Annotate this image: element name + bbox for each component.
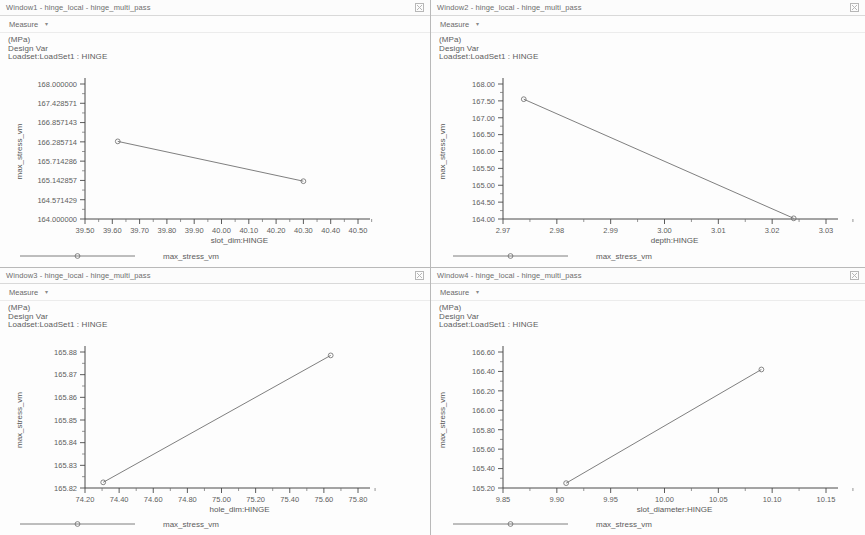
y-tick-label: 167.428571 [37, 99, 77, 108]
x-tick-label: 75.40 [280, 495, 299, 504]
plot-area-window2[interactable]: 168.00167.50167.00166.50166.00165.50165.… [431, 0, 865, 267]
y-axis-label: max_stress_vm [438, 123, 447, 179]
x-tick-label: 74.80 [178, 495, 197, 504]
x-tick-label: 39.90 [185, 226, 204, 235]
y-tick-label: 166.00 [472, 406, 495, 415]
y-tick-label: 165.142857 [37, 176, 77, 185]
x-tick-label: 40.10 [239, 226, 258, 235]
x-axis-label: slot_diameter:HINGE [637, 505, 713, 514]
x-tick-label: 75.80 [349, 495, 368, 504]
y-tick-label: 165.714286 [37, 157, 77, 166]
data-series-line [103, 355, 331, 482]
y-tick-label: 165.00 [472, 181, 495, 190]
y-tick-label: 165.80 [472, 426, 495, 435]
y-tick-label: 166.00 [472, 147, 495, 156]
y-tick-label: 166.40 [472, 367, 495, 376]
y-tick-label: 164.000000 [37, 215, 77, 224]
x-tick-label: 3.00 [657, 226, 672, 235]
x-tick-label: 9.95 [603, 495, 618, 504]
x-tick-label: 40.20 [267, 226, 286, 235]
x-tick-label: 74.20 [76, 495, 95, 504]
y-tick-label: 166.20 [472, 387, 495, 396]
y-tick-label: 166.50 [472, 130, 495, 139]
data-point-marker[interactable] [328, 353, 333, 358]
x-tick-label: 9.90 [550, 495, 565, 504]
y-tick-label: 165.85 [54, 416, 77, 425]
data-point-marker[interactable] [791, 216, 796, 221]
data-series-line [118, 141, 304, 181]
x-tick-label: 40.30 [294, 226, 313, 235]
x-tick-label: 10.15 [817, 495, 836, 504]
y-tick-label: 165.84 [54, 438, 77, 447]
y-axis-label: max_stress_vm [15, 123, 24, 179]
x-axis-label: hole_dim:HINGE [209, 505, 269, 514]
plot-area-window1[interactable]: 168.000000167.428571166.857143166.285714… [0, 0, 430, 267]
x-tick-label: 40.50 [349, 226, 368, 235]
x-tick-label: 40.00 [212, 226, 231, 235]
legend-series-label: max_stress_vm [163, 520, 219, 529]
y-axis-label: max_stress_vm [438, 392, 447, 448]
panel-window2: Window2 - hinge_local - hinge_multi_pass… [430, 0, 865, 267]
x-tick-label: 40.40 [321, 226, 340, 235]
y-tick-label: 165.86 [54, 393, 77, 402]
legend-series-label: max_stress_vm [163, 252, 219, 261]
x-axis-label: slot_dim:HINGE [211, 236, 268, 245]
y-tick-label: 166.285714 [37, 138, 77, 147]
legend-series-label: max_stress_vm [596, 520, 652, 529]
panel-window1: Window1 - hinge_local - hinge_multi_pass… [0, 0, 430, 267]
y-tick-label: 165.87 [54, 370, 77, 379]
data-point-marker[interactable] [101, 480, 106, 485]
x-tick-label: 39.50 [76, 226, 95, 235]
x-tick-label: 75.00 [212, 495, 231, 504]
plot-area-window3[interactable]: 165.88165.87165.86165.85165.84165.83165.… [0, 268, 430, 535]
y-tick-label: 165.83 [54, 461, 77, 470]
data-series-line [524, 99, 794, 218]
legend-series-label: max_stress_vm [596, 252, 652, 261]
x-tick-label: 75.20 [246, 495, 265, 504]
y-tick-label: 164.571429 [37, 196, 77, 205]
x-tick-label: 10.05 [709, 495, 728, 504]
footer-legend-window3: max_stress_vm [8, 515, 422, 531]
panel-window3: Window3 - hinge_local - hinge_multi_pass… [0, 267, 430, 535]
x-tick-label: 3.02 [765, 226, 780, 235]
y-tick-label: 168.000000 [37, 80, 77, 89]
x-axis-label: depth:HINGE [651, 236, 699, 245]
x-tick-label: 10.00 [655, 495, 674, 504]
x-tick-label: 74.60 [144, 495, 163, 504]
y-tick-label: 164.00 [472, 215, 495, 224]
x-tick-label: 39.80 [158, 226, 177, 235]
y-tick-label: 165.50 [472, 164, 495, 173]
y-tick-label: 164.50 [472, 198, 495, 207]
x-tick-label: 2.97 [496, 226, 511, 235]
x-tick-label: 9.85 [496, 495, 511, 504]
y-tick-label: 165.60 [472, 445, 495, 454]
data-series-line [566, 369, 761, 483]
footer-legend-window4: max_stress_vm [439, 515, 857, 531]
y-axis-label: max_stress_vm [15, 392, 24, 448]
x-tick-label: 2.99 [603, 226, 618, 235]
y-tick-label: 165.40 [472, 464, 495, 473]
x-tick-label: 75.60 [314, 495, 333, 504]
x-tick-label: 10.10 [763, 495, 782, 504]
x-tick-label: 2.98 [550, 226, 565, 235]
window-grid: Window1 - hinge_local - hinge_multi_pass… [0, 0, 865, 535]
y-tick-label: 165.20 [472, 484, 495, 493]
footer-legend-window1: max_stress_vm [8, 247, 422, 263]
panel-window4: Window4 - hinge_local - hinge_multi_pass… [430, 267, 865, 535]
y-tick-label: 165.88 [54, 348, 77, 357]
y-tick-label: 168.00 [472, 80, 495, 89]
x-tick-label: 3.01 [711, 226, 726, 235]
y-tick-label: 165.82 [54, 484, 77, 493]
plot-area-window4[interactable]: 166.60166.40166.20166.00165.80165.60165.… [431, 268, 865, 535]
y-tick-label: 167.50 [472, 97, 495, 106]
x-tick-label: 39.60 [103, 226, 122, 235]
data-point-marker[interactable] [759, 367, 764, 372]
footer-legend-window2: max_stress_vm [439, 247, 857, 263]
x-tick-label: 39.70 [130, 226, 149, 235]
x-tick-label: 74.40 [110, 495, 129, 504]
x-tick-label: 3.03 [819, 226, 834, 235]
y-tick-label: 166.857143 [37, 118, 77, 127]
y-tick-label: 166.60 [472, 348, 495, 357]
y-tick-label: 167.00 [472, 114, 495, 123]
